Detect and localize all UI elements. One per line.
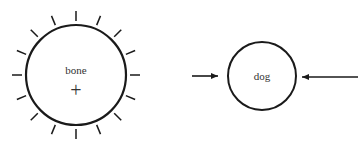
tick-mark [52,16,56,25]
diagram-canvas: bone + dog [0,0,364,146]
tick-mark [126,96,135,100]
bone-node: bone + [12,11,140,139]
arrow-right-icon [192,73,218,79]
plus-icon: + [70,79,81,101]
tick-mark [17,51,26,55]
tick-mark [31,30,38,37]
dog-node: dog [228,42,296,110]
bone-label: bone [65,64,87,76]
tick-mark [114,113,121,120]
tick-mark [31,113,38,120]
tick-mark [52,125,56,134]
tick-mark [126,51,135,55]
tick-mark [97,125,101,134]
tick-mark [17,96,26,100]
tick-mark [97,16,101,25]
diagram-svg: bone + dog [0,0,364,146]
tick-mark [114,30,121,37]
arrow-left-icon [302,74,358,80]
force-arrows [192,73,358,80]
dog-label: dog [254,70,271,82]
